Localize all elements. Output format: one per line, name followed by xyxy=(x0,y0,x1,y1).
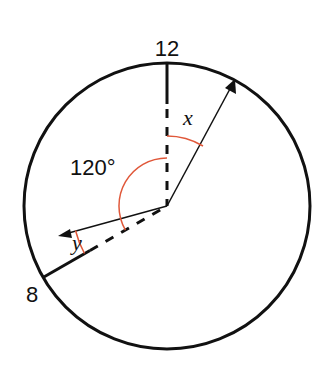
arrowhead-icon xyxy=(58,229,72,238)
hand-arrow-x xyxy=(167,79,236,206)
label-8: 8 xyxy=(26,282,38,307)
clock-diagram: 12 8 120° x y xyxy=(0,0,334,369)
label-angle-y: y xyxy=(70,230,82,255)
label-angle-x: x xyxy=(182,105,193,130)
angle-x-arc xyxy=(167,136,203,146)
label-angle-120: 120° xyxy=(70,155,116,180)
eight-oclock-line xyxy=(43,206,167,278)
label-12: 12 xyxy=(155,36,179,61)
arrowhead-icon xyxy=(225,79,236,94)
